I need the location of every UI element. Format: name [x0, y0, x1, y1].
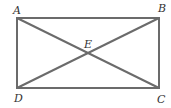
label-b: B [157, 2, 166, 15]
rectangle-diagram: A B E D C [0, 0, 171, 108]
label-a: A [12, 4, 21, 17]
label-c: C [157, 93, 166, 106]
label-e: E [83, 38, 92, 51]
label-d: D [13, 92, 23, 105]
